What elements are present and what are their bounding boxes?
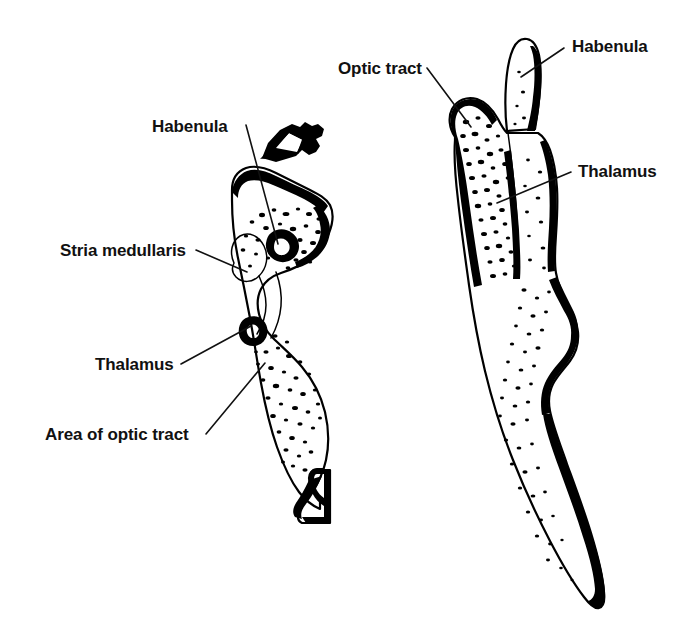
anatomical-figure: Habenula Stria medullaris Thalamus Area … bbox=[0, 0, 687, 626]
label-habenula-left: Habenula bbox=[152, 117, 228, 136]
label-optic-tract: Optic tract bbox=[338, 59, 422, 78]
figure-canvas: Habenula Stria medullaris Thalamus Area … bbox=[0, 0, 687, 626]
label-thalamus-left: Thalamus bbox=[95, 355, 174, 374]
label-habenula-right: Habenula bbox=[572, 37, 648, 56]
label-area-of-optic-tract: Area of optic tract bbox=[45, 425, 189, 444]
label-stria-medullaris: Stria medullaris bbox=[60, 241, 186, 260]
label-thalamus-right: Thalamus bbox=[578, 162, 657, 181]
